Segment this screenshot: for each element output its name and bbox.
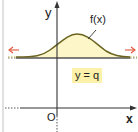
y-axis-arrow-icon xyxy=(55,1,60,8)
curve-label: f(x) xyxy=(90,14,106,25)
graph-canvas xyxy=(0,0,138,132)
fx-leader-line xyxy=(88,30,96,39)
y-axis-label: y xyxy=(45,6,52,19)
origin-label: O xyxy=(47,112,56,123)
right-arrow-icon xyxy=(125,47,135,53)
x-axis-arrow-icon xyxy=(130,106,137,111)
asymptote-label: y = q xyxy=(72,68,102,83)
x-axis-label: x xyxy=(126,113,133,125)
left-arrow-icon xyxy=(9,47,19,53)
function-graph: y f(x) y = q O x xyxy=(0,0,138,132)
